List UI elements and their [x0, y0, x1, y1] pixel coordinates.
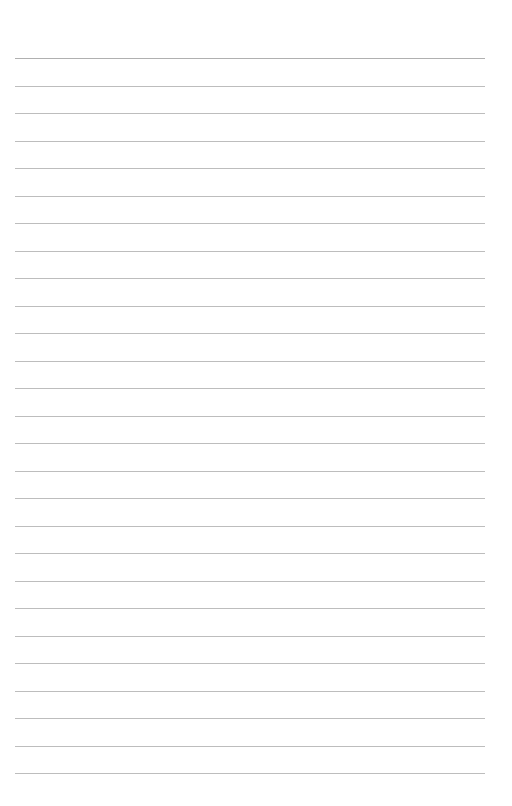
ruled-line [15, 526, 485, 527]
ruled-line [15, 498, 485, 499]
ruled-line [15, 718, 485, 719]
ruled-line [15, 581, 485, 582]
ruled-line [15, 251, 485, 252]
ruled-line [15, 58, 485, 59]
ruled-line [15, 388, 485, 389]
ruled-line [15, 113, 485, 114]
ruled-line [15, 223, 485, 224]
ruled-line [15, 471, 485, 472]
ruled-line [15, 773, 485, 774]
lined-paper-page [0, 0, 512, 806]
ruled-line [15, 416, 485, 417]
ruled-line [15, 443, 485, 444]
ruled-line [15, 168, 485, 169]
ruled-line [15, 691, 485, 692]
ruled-line [15, 553, 485, 554]
ruled-line [15, 306, 485, 307]
ruled-line [15, 361, 485, 362]
ruled-line [15, 636, 485, 637]
ruled-line [15, 746, 485, 747]
ruled-line [15, 86, 485, 87]
ruled-line [15, 141, 485, 142]
ruled-line [15, 608, 485, 609]
ruled-line [15, 663, 485, 664]
ruled-line [15, 196, 485, 197]
ruled-line [15, 333, 485, 334]
ruled-line [15, 278, 485, 279]
